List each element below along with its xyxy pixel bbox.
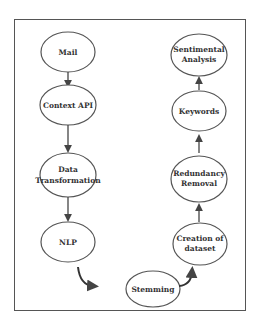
node-sentimental-analysis: Sentimental Analysis: [171, 34, 227, 76]
svg-text:dataset: dataset: [185, 244, 216, 253]
svg-text:Mail: Mail: [59, 48, 78, 57]
node-nlp: NLP: [41, 222, 95, 262]
node-context-api: Context API: [40, 85, 96, 125]
svg-text:Redundancy: Redundancy: [173, 169, 225, 178]
svg-text:Removal: Removal: [181, 179, 217, 188]
node-keywords: Keywords: [172, 91, 226, 131]
svg-text:Stemming: Stemming: [131, 285, 175, 294]
node-redundancy-removal: Redundancy Removal: [171, 156, 227, 202]
node-stemming: Stemming: [126, 271, 180, 307]
node-mail: Mail: [41, 32, 95, 72]
node-data-transformation: Data Transformation: [35, 153, 101, 197]
svg-text:Transformation: Transformation: [35, 176, 101, 185]
flow-diagram: Mail Context API Data Transformation NLP…: [0, 0, 262, 325]
svg-text:Context API: Context API: [43, 101, 94, 110]
svg-text:Keywords: Keywords: [179, 107, 219, 116]
node-creation-of-dataset: Creation of dataset: [173, 223, 227, 265]
svg-text:NLP: NLP: [59, 238, 77, 247]
svg-text:Data: Data: [58, 165, 78, 174]
svg-text:Sentimental: Sentimental: [173, 45, 224, 54]
arrow-stemming-to-creation-of-dataset: [179, 272, 192, 286]
arrow-nlp-to-stemming: [78, 267, 93, 286]
svg-text:Analysis: Analysis: [181, 55, 217, 64]
svg-text:Creation of: Creation of: [176, 234, 224, 243]
